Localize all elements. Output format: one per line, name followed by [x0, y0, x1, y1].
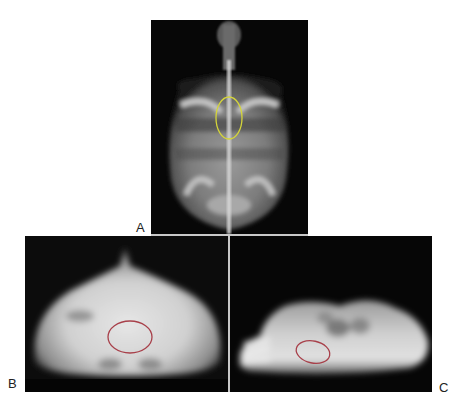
panel-label-c: C	[439, 381, 448, 394]
spine	[227, 60, 231, 234]
panel-label-b: B	[8, 377, 17, 390]
turtle-dorsoventral-xray	[151, 20, 308, 234]
radiograph-panel-b	[25, 236, 228, 392]
radiograph-panel-c	[230, 236, 432, 392]
turtle-craniocaudal-xray	[25, 236, 228, 392]
radiograph-panel-a	[151, 20, 308, 234]
panel-label-a: A	[136, 221, 145, 234]
turtle-lateral-xray	[230, 236, 432, 392]
